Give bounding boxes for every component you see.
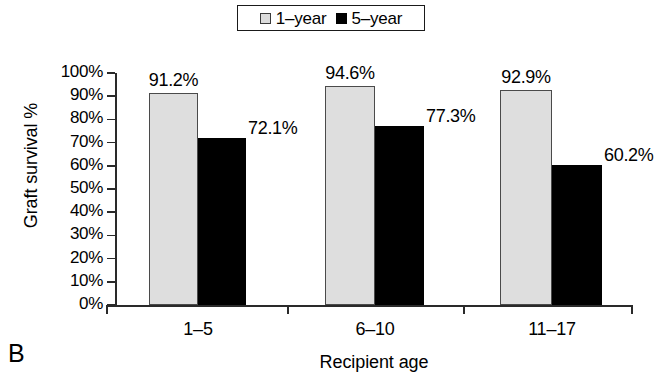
y-tick-mark bbox=[107, 281, 115, 283]
y-tick-mark bbox=[107, 304, 116, 306]
bar-value-label: 72.1% bbox=[248, 119, 298, 137]
y-axis-line bbox=[115, 73, 117, 305]
y-tick-mark bbox=[107, 142, 115, 144]
x-axis-title: Recipient age bbox=[115, 352, 633, 373]
y-tick-mark bbox=[107, 188, 115, 190]
y-tick-mark bbox=[107, 165, 115, 167]
bar-value-label: 77.3% bbox=[426, 107, 476, 125]
legend-entry-1-year: 1–year bbox=[260, 10, 327, 27]
bar-1-year-1-5[interactable]: 91.2% bbox=[149, 93, 198, 305]
y-axis-title: Graft survival % bbox=[21, 51, 42, 281]
bar-5-year-6-10[interactable]: 77.3% bbox=[375, 126, 424, 305]
bar-1-year-6-10[interactable]: 94.6% bbox=[325, 86, 375, 306]
y-tick-label: 80% bbox=[70, 108, 103, 128]
bar-1-year-11-17[interactable]: 92.9% bbox=[500, 90, 552, 306]
bar-value-label: 60.2% bbox=[604, 146, 654, 164]
legend-entry-5-year: 5–year bbox=[336, 10, 403, 27]
bar-value-label: 94.6% bbox=[325, 64, 375, 82]
y-tick-mark bbox=[107, 258, 115, 260]
legend-swatch-icon-1-year bbox=[260, 13, 271, 24]
plot-area: 100% 90% 80% 70% 60% 50% 40% 30% 20% 10%… bbox=[115, 73, 633, 305]
y-tick-label: 10% bbox=[70, 271, 103, 291]
y-tick-label: 70% bbox=[70, 132, 103, 152]
bar-value-label: 91.2% bbox=[149, 71, 199, 89]
chart-legend: 1–year 5–year bbox=[237, 5, 425, 31]
x-category-label-11-17: 11–17 bbox=[528, 319, 576, 340]
bar-5-year-11-17[interactable]: 60.2% bbox=[552, 165, 602, 305]
y-tick-label: 20% bbox=[70, 248, 103, 268]
y-tick-mark bbox=[107, 119, 115, 121]
panel-letter-b: B bbox=[8, 341, 25, 366]
y-tick-label: 30% bbox=[70, 224, 103, 244]
x-axis-line bbox=[106, 305, 633, 307]
y-tick-mark bbox=[107, 95, 115, 97]
legend-swatch-icon-5-year bbox=[336, 13, 347, 24]
x-tick-mark-3 bbox=[631, 305, 633, 314]
bar-value-label: 92.9% bbox=[501, 68, 551, 86]
y-tick-label: 100% bbox=[61, 62, 103, 82]
y-tick-label: 90% bbox=[70, 85, 103, 105]
x-tick-mark-2 bbox=[463, 305, 465, 314]
y-tick-label: 40% bbox=[70, 201, 103, 221]
y-tick-mark bbox=[107, 235, 115, 237]
bar-5-year-1-5[interactable]: 72.1% bbox=[198, 138, 246, 305]
y-tick-label: 50% bbox=[70, 178, 103, 198]
x-tick-mark-1 bbox=[287, 305, 289, 314]
x-category-label-6-10: 6–10 bbox=[355, 319, 394, 340]
x-tick-mark-origin bbox=[106, 305, 108, 314]
y-tick-mark bbox=[107, 72, 115, 74]
legend-label-1-year: 1–year bbox=[276, 10, 327, 27]
x-category-label-1-5: 1–5 bbox=[183, 319, 212, 340]
y-tick-label: 60% bbox=[70, 155, 103, 175]
y-tick-label: 0% bbox=[79, 294, 103, 314]
legend-label-5-year: 5–year bbox=[352, 10, 403, 27]
y-tick-mark bbox=[107, 211, 115, 213]
